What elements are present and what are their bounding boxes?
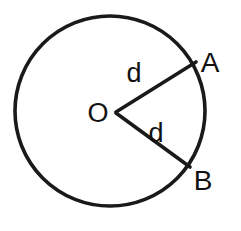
center-label: O: [87, 98, 108, 128]
geometry-figure: O A B d d: [0, 0, 241, 231]
point-b-label: B: [194, 165, 213, 196]
circle-diagram-canvas: O A B d d: [0, 0, 241, 231]
radius-ob-label: d: [148, 118, 163, 148]
circle-outline: [15, 16, 205, 206]
point-a-label: A: [201, 47, 220, 78]
radius-oa-label: d: [126, 58, 141, 88]
